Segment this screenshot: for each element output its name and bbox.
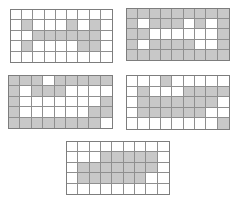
shaded-grid-cell [135, 152, 146, 162]
shaded-grid-cell [127, 9, 138, 19]
empty-grid-cell [66, 107, 77, 117]
shaded-grid-cell [101, 173, 112, 183]
empty-grid-cell [55, 107, 66, 117]
empty-grid-cell [22, 52, 33, 62]
empty-grid-cell [67, 173, 78, 183]
empty-grid-cell [101, 20, 112, 30]
empty-grid-cell [127, 76, 138, 87]
empty-grid-cell [78, 20, 89, 30]
shaded-grid-cell [90, 41, 101, 51]
empty-grid-cell [101, 10, 112, 20]
empty-grid-cell [150, 76, 161, 87]
empty-grid-cell [124, 184, 135, 194]
empty-grid-cell [22, 10, 33, 20]
shaded-grid-cell [172, 50, 183, 60]
empty-grid-cell [124, 142, 135, 152]
empty-grid-cell [161, 87, 172, 98]
empty-grid-cell [78, 52, 89, 62]
shaded-grid-cell [146, 163, 157, 173]
shaded-grid-cell [206, 87, 217, 98]
shaded-grid-cell [218, 19, 229, 29]
shaded-grid-cell [101, 163, 112, 173]
empty-grid-cell [89, 97, 100, 107]
shaded-grid-cell [127, 19, 138, 29]
shaded-grid-cell [206, 97, 217, 108]
empty-grid-cell [56, 10, 67, 20]
empty-grid-cell [150, 118, 161, 129]
shaded-grid-cell [195, 108, 206, 119]
shaded-grid-cell [20, 118, 31, 128]
empty-grid-cell [135, 142, 146, 152]
empty-grid-cell [158, 152, 169, 162]
shaded-grid-cell [9, 97, 20, 107]
shaded-grid-cell [195, 50, 206, 60]
shaded-grid-cell [161, 97, 172, 108]
empty-grid-cell [206, 19, 217, 29]
empty-grid-cell [101, 184, 112, 194]
empty-grid-cell [11, 10, 22, 20]
empty-grid-cell [127, 87, 138, 98]
shaded-grid-cell [90, 163, 101, 173]
empty-grid-cell [56, 41, 67, 51]
empty-grid-cell [55, 97, 66, 107]
shaded-grid-cell [146, 152, 157, 162]
empty-grid-cell [20, 86, 31, 96]
shaded-grid-cell [218, 29, 229, 39]
shaded-grid-cell [124, 152, 135, 162]
shaded-grid-cell [150, 97, 161, 108]
empty-grid-cell [78, 86, 89, 96]
shaded-grid-cell [9, 118, 20, 128]
empty-grid-cell [101, 52, 112, 62]
empty-grid-cell [11, 52, 22, 62]
shaded-grid-cell [172, 108, 183, 119]
empty-grid-cell [33, 10, 44, 20]
shaded-grid-cell [184, 97, 195, 108]
shaded-grid-cell [66, 76, 77, 86]
empty-grid-cell [218, 108, 229, 119]
shaded-grid-cell [124, 173, 135, 183]
shaded-grid-cell [184, 9, 195, 19]
empty-grid-cell [66, 97, 77, 107]
empty-grid-cell [138, 118, 149, 129]
empty-grid-cell [11, 20, 22, 30]
shaded-grid-cell [32, 118, 43, 128]
empty-grid-cell [32, 97, 43, 107]
empty-grid-cell [158, 184, 169, 194]
shaded-grid-cell [112, 163, 123, 173]
empty-grid-cell [101, 118, 112, 128]
empty-grid-cell [127, 97, 138, 108]
shaded-grid-cell [67, 31, 78, 41]
empty-grid-cell [33, 52, 44, 62]
shaded-grid-cell [127, 40, 138, 50]
empty-grid-cell [112, 142, 123, 152]
grid-bottom-center [66, 141, 170, 195]
shaded-grid-cell [78, 41, 89, 51]
empty-grid-cell [172, 29, 183, 39]
empty-grid-cell [218, 76, 229, 87]
shaded-grid-cell [206, 9, 217, 19]
empty-grid-cell [184, 118, 195, 129]
shaded-grid-cell [112, 173, 123, 183]
empty-grid-cell [11, 31, 22, 41]
shaded-grid-cell [150, 19, 161, 29]
empty-grid-cell [90, 152, 101, 162]
empty-grid-cell [67, 142, 78, 152]
shaded-grid-cell [32, 86, 43, 96]
empty-grid-cell [67, 163, 78, 173]
empty-grid-cell [78, 10, 89, 20]
empty-grid-cell [195, 40, 206, 50]
empty-grid-cell [206, 29, 217, 39]
empty-grid-cell [67, 184, 78, 194]
empty-grid-cell [32, 107, 43, 117]
shaded-grid-cell [138, 50, 149, 60]
shaded-grid-cell [66, 118, 77, 128]
empty-grid-cell [158, 163, 169, 173]
empty-grid-cell [218, 97, 229, 108]
empty-grid-cell [101, 86, 112, 96]
shaded-grid-cell [43, 118, 54, 128]
empty-grid-cell [158, 173, 169, 183]
shaded-grid-cell [112, 152, 123, 162]
empty-grid-cell [206, 118, 217, 129]
empty-grid-cell [67, 10, 78, 20]
shaded-grid-cell [195, 97, 206, 108]
